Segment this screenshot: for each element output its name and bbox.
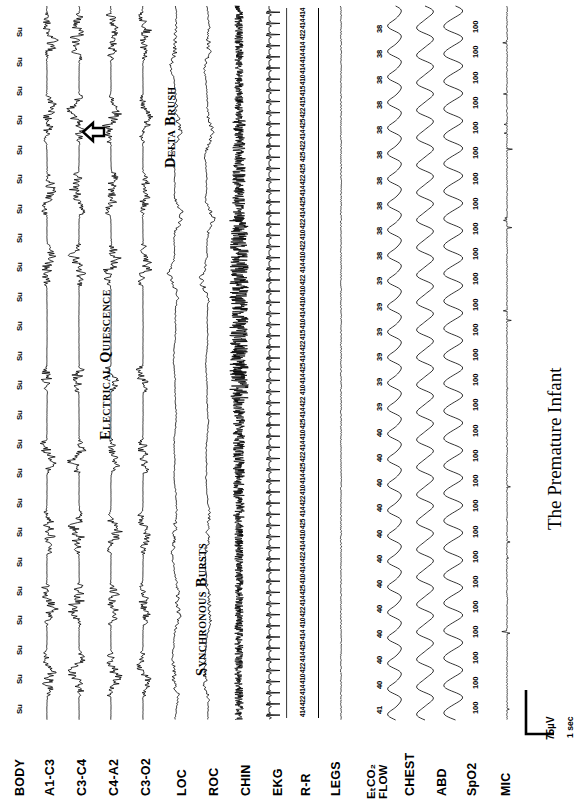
etco2-value: 38 [376, 227, 384, 235]
rr-interval-value: 422 [300, 452, 307, 462]
etco2-value: 40 [376, 681, 384, 689]
spo2-value: 100 [472, 626, 480, 638]
channel-label-chest: CHEST [404, 753, 417, 796]
spo2-value: 100 [472, 172, 480, 184]
trace-legs [330, 0, 352, 726]
etco2-label-line2: FLOW [377, 764, 389, 799]
rr-interval-value: 425 [300, 518, 307, 528]
etco2-value: 39 [376, 403, 384, 411]
calibration-amplitude-label: 75µV [546, 716, 556, 740]
spo2-value: 100 [472, 223, 480, 235]
channel-label-spo2: SpO2 [466, 763, 479, 796]
spo2-value: 100 [472, 46, 480, 58]
rr-interval-value: 422 [300, 663, 307, 673]
etco2-value: 38 [376, 176, 384, 184]
channel-label-body: BODY [14, 759, 27, 796]
rr-interval-value: 414 [300, 263, 307, 273]
body-position-marker: Su [16, 527, 24, 537]
body-position-marker: Su [16, 557, 24, 567]
rr-interval-value: 425 [300, 463, 307, 473]
etco2-value: 40 [376, 605, 384, 613]
channel-label-rr: R-R [300, 773, 313, 796]
body-position-marker: Su [16, 351, 24, 361]
etco2-value: 38 [376, 101, 384, 109]
rr-interval-value: 410 [300, 252, 307, 262]
body-position-marker: Su [16, 498, 24, 508]
spo2-value: 100 [472, 449, 480, 461]
trace-mic [496, 0, 518, 726]
rr-interval-value: 414 [300, 374, 307, 384]
trace-c3o2 [128, 0, 158, 726]
rr-interval-value: 414 [300, 563, 307, 573]
annotation-synchronous-bursts: Synchronous Bursts [194, 543, 209, 676]
spo2-value: 100 [472, 248, 480, 260]
polysomnogram-figure: BODY A1-C3 C3-C4 C4-A2 C3-O2 LOC ROC CHI… [0, 0, 588, 805]
rr-interval-value: 414 [300, 629, 307, 639]
trace-abd-svg [440, 0, 466, 726]
rr-interval-value: 414 [300, 651, 307, 661]
channel-label-roc: ROC [208, 768, 221, 796]
body-position-marker: Su [16, 116, 24, 126]
rr-interval-value: 414 [300, 8, 307, 18]
trace-ekg [258, 0, 284, 726]
rr-interval-value: 422 [300, 396, 307, 406]
body-position-marker: Su [16, 263, 24, 273]
spo2-value: 100 [472, 374, 480, 386]
rr-interval-value: 414 [300, 19, 307, 29]
rr-interval-value: 415 [300, 97, 307, 107]
rr-interval-value: 410 [300, 75, 307, 85]
rr-interval-value: 422 [300, 496, 307, 506]
rr-interval-value: 410 [300, 618, 307, 628]
body-position-marker: Su [16, 586, 24, 596]
figure-title: The Premature Infant [545, 368, 564, 530]
rr-interval-value: 414 [300, 130, 307, 140]
trace-c3c4 [64, 0, 94, 726]
body-position-marker: Su [16, 469, 24, 479]
body-position-marker: Su [16, 645, 24, 655]
rr-interval-value: 414 [300, 208, 307, 218]
spo2-value: 100 [472, 576, 480, 588]
spo2-value: 100 [472, 197, 480, 209]
spo2-value: 100 [472, 273, 480, 285]
rr-interval-value: 422 [300, 696, 307, 706]
etco2-label-line1: EₜCO₂ [365, 764, 377, 799]
trace-chest [412, 0, 438, 726]
rr-interval-value: 410 [300, 430, 307, 440]
trace-ekg-svg [258, 0, 284, 726]
spo2-value: 100 [472, 298, 480, 310]
etco2-value: 39 [376, 302, 384, 310]
spo2-value: 100 [472, 122, 480, 134]
trace-chest-svg [412, 0, 438, 726]
etco2-value: 38 [376, 201, 384, 209]
channel-label-ekg: EKG [272, 768, 285, 796]
spo2-value: 100 [472, 399, 480, 411]
rr-interval-value: 414 [300, 308, 307, 318]
etco2-value: 38 [376, 252, 384, 260]
spo2-value: 100 [472, 651, 480, 663]
rr-interval-value: 425 [300, 419, 307, 429]
rr-interval-value: 414 [300, 52, 307, 62]
body-position-marker: Su [16, 616, 24, 626]
etco2-value: 40 [376, 479, 384, 487]
rr-interval-value: 414 [300, 441, 307, 451]
rr-interval-value: 415 [300, 330, 307, 340]
rr-interval-value: 414 [300, 64, 307, 74]
etco2-value: 38 [376, 151, 384, 159]
etco2-value: 38 [376, 50, 384, 58]
rr-interval-value: 415 [300, 86, 307, 96]
rr-interval-value: 425 [300, 163, 307, 173]
rr-interval-value: 410 [300, 319, 307, 329]
rr-interval-value: 425 [300, 197, 307, 207]
rr-interval-value: 410 [300, 529, 307, 539]
rr-interval-value: 414 [300, 352, 307, 362]
rr-interval-value: 410 [300, 574, 307, 584]
body-position-marker: Su [16, 380, 24, 390]
rr-interval-value: 414 [300, 407, 307, 417]
channel-label-c4a2: C4-A2 [108, 759, 121, 796]
body-position-marker: Su [16, 674, 24, 684]
channel-label-legs: LEGS [330, 761, 343, 796]
rr-interval-value: 414 [300, 41, 307, 51]
body-position-marker: Su [16, 233, 24, 243]
spo2-value: 100 [472, 349, 480, 361]
body-position-marker: Su [16, 145, 24, 155]
